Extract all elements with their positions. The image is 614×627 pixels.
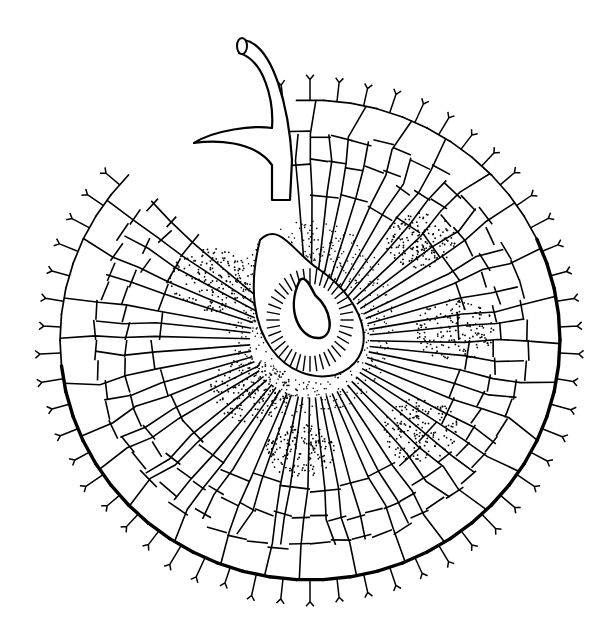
botanical-line-drawing <box>0 0 614 627</box>
stalk <box>194 38 292 200</box>
central-pore <box>254 234 364 376</box>
illustration-canvas <box>0 0 614 627</box>
